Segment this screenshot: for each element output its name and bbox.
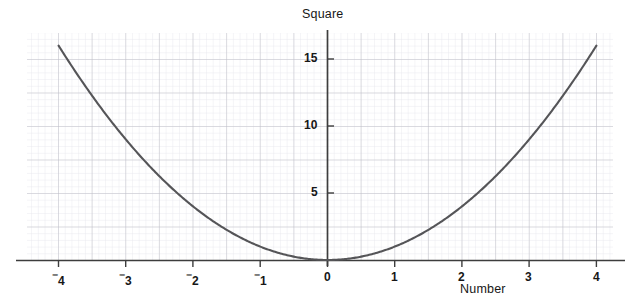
y-tick-label-15: 15: [304, 52, 317, 64]
major-gridlines: [27, 33, 613, 261]
x-tick-label-2: 2: [458, 271, 465, 283]
x-tick-value-minus4: 4: [58, 274, 65, 288]
x-tick-label-minus3: ⁻3: [119, 271, 132, 287]
x-tick-label-minus2: ⁻2: [186, 271, 199, 287]
x-tick-value-minus3: 3: [125, 274, 132, 288]
minus-sign-icon: ⁻: [52, 271, 58, 283]
x-tick-value-minus1: 1: [260, 274, 267, 288]
grid-group: [27, 33, 613, 261]
minus-sign-icon: ⁻: [186, 271, 192, 283]
minus-sign-icon: ⁻: [254, 271, 260, 283]
plot-canvas: [0, 0, 627, 306]
x-tick-label-minus1: ⁻1: [254, 271, 267, 287]
chart-title: Square: [302, 8, 344, 21]
x-tick-label-4: 4: [593, 271, 600, 283]
square-function-chart: Square Number 15 10 5 ⁻4 ⁻3 ⁻2 ⁻1 0 1 2 …: [0, 0, 627, 306]
minus-sign-icon: ⁻: [119, 271, 125, 283]
x-tick-label-minus4: ⁻4: [52, 271, 65, 287]
x-tick-label-1: 1: [391, 271, 398, 283]
x-tick-value-minus2: 2: [192, 274, 199, 288]
x-axis-title: Number: [460, 283, 506, 296]
y-tick-label-10: 10: [304, 119, 317, 131]
x-tick-label-3: 3: [525, 271, 532, 283]
y-tick-label-5: 5: [311, 186, 318, 198]
x-tick-label-0: 0: [324, 271, 331, 283]
